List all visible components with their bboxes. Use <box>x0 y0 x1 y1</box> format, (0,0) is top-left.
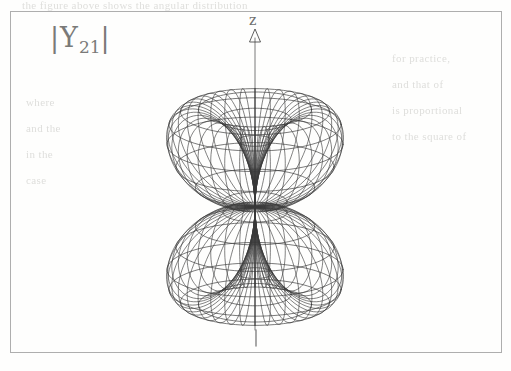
wireframe-surface-plot <box>0 0 511 371</box>
figure-root: the figure above shows the angular distr… <box>0 0 511 371</box>
